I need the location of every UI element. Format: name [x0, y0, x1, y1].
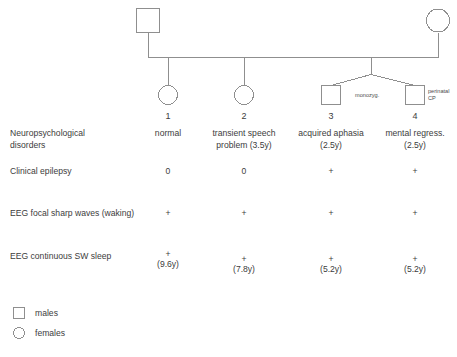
row3-value-1-line2: (9.6y): [157, 259, 179, 271]
row0-value-3-line1: acquired aphasia: [298, 128, 363, 140]
row0-value-2-line2: problem (3.5y): [216, 140, 271, 152]
father-square: [137, 9, 160, 33]
row0-value-2-line1: transient speech: [212, 128, 275, 140]
row2-value-3: +: [328, 208, 333, 220]
row1-value-2: 0: [242, 166, 247, 178]
perinatal-cp-label-line2: CP: [428, 95, 436, 102]
child-id-2: 2: [241, 111, 246, 121]
row3-value-4-line2: (5.2y): [404, 264, 426, 276]
row-label-clinical-epilepsy: Clinical epilepsy: [10, 166, 72, 178]
child4-square: [406, 86, 425, 105]
legend-male-square: [14, 308, 25, 319]
row-label-eeg-continuous-sw-sleep: EEG continuous SW sleep: [10, 251, 111, 263]
row1-value-1: 0: [166, 166, 171, 178]
row3-value-3-line2: (5.2y): [320, 264, 342, 276]
row2-value-2: +: [241, 208, 246, 220]
twin-branch-left: [331, 75, 371, 86]
row1-value-3: +: [328, 166, 333, 178]
row0-value-4-line2: (2.5y): [404, 140, 426, 152]
monozygosity-label: monozyg.: [355, 92, 379, 99]
legend-label-males: males: [35, 308, 58, 318]
row0-value-3-line2: (2.5y): [320, 140, 342, 152]
child-id-3: 3: [328, 111, 333, 121]
row2-value-4: +: [412, 208, 417, 220]
child-id-1: 1: [165, 111, 170, 121]
row1-value-4: +: [412, 166, 417, 178]
legend-female-circle: [14, 328, 25, 339]
row0-value-4-line1: mental regress.: [385, 128, 444, 140]
row-label-eeg-focal-sharp-waves: EEG focal sharp waves (waking): [10, 208, 134, 220]
row3-value-2-line2: (7.8y): [233, 264, 255, 276]
child3-square: [322, 86, 341, 105]
row0-value-1-line1: normal: [155, 128, 181, 140]
child2-circle: [235, 86, 254, 105]
twin-branch-right: [371, 75, 415, 86]
row-label-neuropsych-line2: disorders: [10, 140, 45, 152]
child-id-4: 4: [412, 111, 417, 121]
legend-label-females: females: [35, 328, 65, 338]
pedigree-diagram: [0, 0, 457, 357]
mother-circle: [427, 9, 450, 32]
row-label-neuropsych-line1: Neuropsychological: [10, 128, 85, 140]
child1-circle: [159, 86, 178, 105]
row2-value-1: +: [165, 208, 170, 220]
